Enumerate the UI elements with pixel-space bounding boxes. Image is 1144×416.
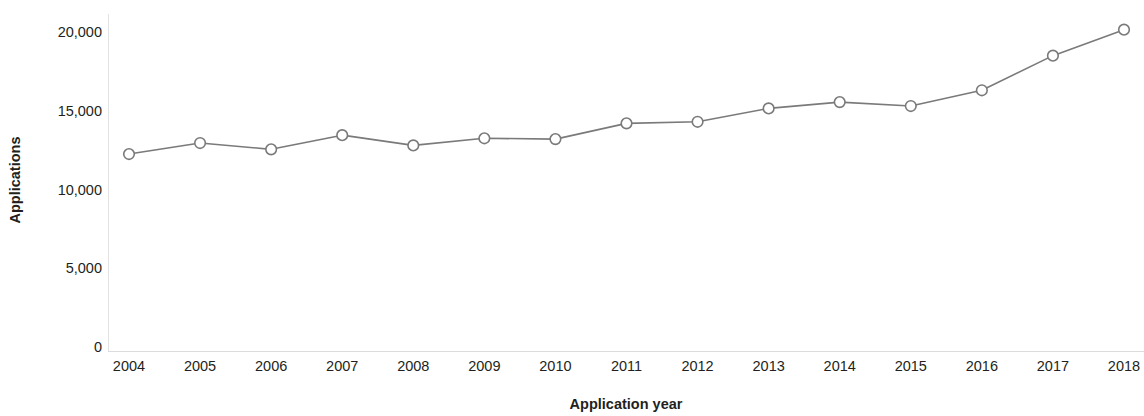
data-point-marker [1048,50,1059,61]
x-tick-label: 2012 [681,358,713,374]
x-tick-label: 2015 [895,358,927,374]
x-tick-label: 2011 [611,358,642,374]
x-tick-label: 2007 [326,358,358,374]
x-tick-label: 2009 [468,358,500,374]
data-point-marker [266,144,277,155]
x-tick-label: 2004 [113,358,145,374]
data-point-marker [195,138,206,149]
x-tick-label: 2014 [824,358,856,374]
data-point-marker [905,101,916,112]
data-point-marker [337,130,348,141]
x-tick-label: 2008 [397,358,429,374]
data-point-marker [479,133,490,144]
x-tick-label: 2010 [539,358,571,374]
x-axis-title: Application year [108,396,1144,412]
data-point-marker [692,116,703,127]
x-tick-label: 2017 [1037,358,1069,374]
data-point-marker [408,140,419,151]
x-tick-label: 2018 [1108,358,1140,374]
x-tick-label: 2013 [753,358,785,374]
data-point-marker [550,134,561,145]
data-point-marker [621,118,632,129]
x-tick-label: 2016 [966,358,998,374]
series-line [129,30,1124,154]
data-point-marker [834,97,845,108]
data-point-marker [763,103,774,114]
x-tick-label: 2005 [184,358,216,374]
data-point-marker [1119,24,1130,35]
x-tick-label: 2006 [255,358,287,374]
line-chart: Applications 05,00010,00015,00020,000 20… [0,0,1144,416]
data-point-marker [977,85,988,96]
plot-area [0,0,1144,416]
data-point-marker [124,149,135,160]
